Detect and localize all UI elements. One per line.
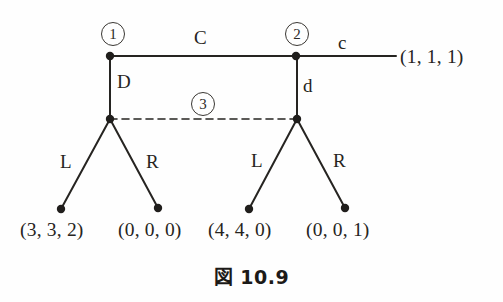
payoff-1: (1, 1, 1) (400, 47, 464, 67)
payoff-5: (0, 0, 1) (306, 220, 370, 240)
action-label-R2: R (333, 151, 346, 170)
action-label-d: d (303, 76, 313, 95)
game-tree-figure: 1 2 3 C D c d L R L R (1, 1, 1) (3, 3, 2… (0, 0, 503, 302)
terminal-dot-5 (341, 204, 349, 212)
node-dot-3b[interactable] (293, 115, 301, 123)
action-label-C: C (194, 28, 207, 47)
payoff-3: (0, 0, 0) (118, 220, 182, 240)
action-label-R1: R (146, 152, 159, 171)
caption-number: 10.9 (240, 266, 289, 288)
terminal-dot-3 (154, 204, 162, 212)
node-dot-3a[interactable] (106, 115, 114, 123)
action-label-L2: L (251, 151, 263, 170)
player-label-2: 2 (285, 22, 309, 46)
caption-mark: 図 (214, 266, 234, 288)
action-label-D: D (117, 72, 131, 91)
figure-caption: 図 10.9 (0, 262, 503, 289)
action-label-L1: L (60, 152, 72, 171)
node-dot-2[interactable] (292, 52, 300, 60)
node-dot-1[interactable] (106, 52, 114, 60)
action-label-c: c (338, 33, 346, 52)
player-label-3-information-set: 3 (191, 92, 215, 116)
payoff-4: (4, 4, 0) (208, 220, 272, 240)
payoff-2: (3, 3, 2) (20, 220, 84, 240)
player-label-1: 1 (101, 22, 125, 46)
terminal-dot-2 (57, 205, 65, 213)
terminal-dot-4 (245, 205, 253, 213)
